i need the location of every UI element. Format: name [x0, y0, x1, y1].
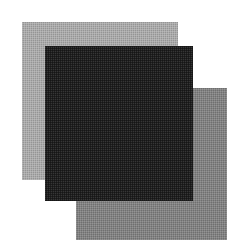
dark-square — [45, 46, 193, 201]
figure-canvas — [0, 0, 247, 252]
